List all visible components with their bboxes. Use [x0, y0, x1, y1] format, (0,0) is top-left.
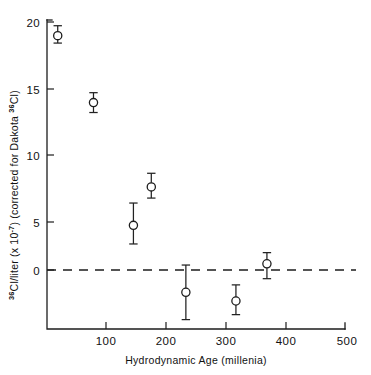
y-tick-labels: 0 5 10 15 20	[26, 17, 40, 277]
scatter-plot-svg: 36Cl/liter (x 10-7) (corrected for Dakot…	[0, 0, 371, 375]
y-axis-ticks	[47, 22, 54, 270]
y-title-mid-2: ) (corrected for Dakota	[8, 113, 20, 226]
data-marker	[263, 260, 271, 268]
y-title-mid-3: Cl)	[8, 90, 20, 104]
data-marker	[182, 288, 190, 296]
data-point	[147, 173, 155, 198]
y-tick-label-20: 20	[26, 17, 40, 29]
x-tick-label-500: 500	[337, 335, 357, 347]
y-tick-label-10: 10	[26, 150, 40, 162]
y-tick-label-0: 0	[33, 265, 40, 277]
x-tick-label-100: 100	[96, 335, 116, 347]
data-marker	[147, 183, 155, 191]
chart-figure: 36Cl/liter (x 10-7) (corrected for Dakot…	[0, 0, 371, 375]
data-point	[263, 253, 271, 279]
data-marker	[232, 297, 240, 305]
y-tick-label-5: 5	[33, 217, 40, 229]
data-point-layer	[54, 26, 272, 320]
data-point	[89, 93, 97, 113]
data-point	[182, 265, 190, 320]
x-axis-ticks	[106, 322, 286, 329]
data-point	[232, 285, 240, 315]
y-tick-label-15: 15	[26, 84, 40, 96]
data-point	[54, 26, 62, 43]
y-title-sup-3: 36	[7, 104, 16, 113]
data-marker	[54, 32, 62, 40]
x-axis-title: Hydrodynamic Age (millenia)	[125, 354, 267, 366]
data-marker	[129, 221, 137, 229]
y-axis-title: 36Cl/liter (x 10-7) (corrected for Dakot…	[7, 90, 20, 300]
x-tick-label-300: 300	[216, 335, 236, 347]
axis-spines	[47, 20, 345, 329]
data-marker	[89, 99, 97, 107]
data-point	[129, 203, 137, 244]
svg-text:36Cl/liter (x 10-7) (corrected: 36Cl/liter (x 10-7) (corrected for Dakot…	[7, 90, 20, 300]
x-tick-labels: 100 200 300 400 500	[96, 335, 357, 347]
y-title-mid-1: Cl/liter (x 10	[8, 233, 20, 292]
x-tick-label-200: 200	[156, 335, 176, 347]
x-tick-label-400: 400	[276, 335, 296, 347]
y-title-sup-2: -7	[7, 226, 16, 233]
y-title-sup-1: 36	[7, 291, 16, 300]
